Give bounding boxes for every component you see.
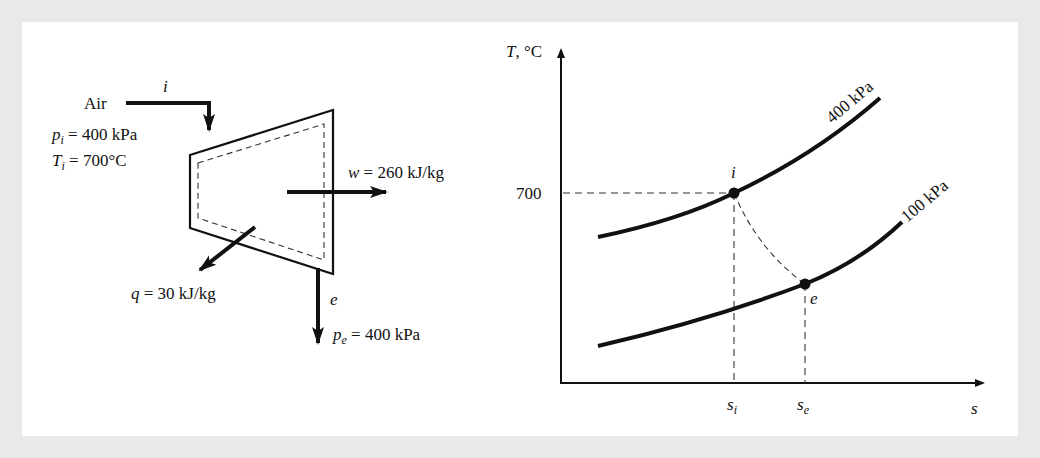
inlet-flow-arrow [126,103,209,130]
point-e-label: e [810,289,818,308]
inlet-pressure-label: pi = 400 kPa [51,125,138,147]
inlet-temperature-label: Ti = 700°C [52,151,127,173]
inlet-state-label: i [163,77,168,96]
isobar-100kpa [598,222,902,346]
y-axis-label: T, °C [506,42,542,61]
expansion-process-curve [734,193,805,284]
air-label: Air [84,94,107,113]
point-i-label: i [731,163,736,182]
work-output-label: w = 260 kJ/kg [348,163,445,182]
ts-diagram: T, °C s 700 400 kPa 100 kPa i e si se [506,42,983,418]
isobar-400kpa-label: 400 kPa [822,77,877,127]
x-tick-se: se [797,395,810,417]
x-tick-si: si [727,395,737,417]
state-point-i [729,188,740,199]
exit-pressure-label: pe = 400 kPa [332,325,421,347]
figure-canvas: i Air pi = 400 kPa Ti = 700°C w = 260 kJ… [0,0,1040,458]
x-axis-label: s [971,399,978,418]
isobar-100kpa-label: 100 kPa [897,176,952,226]
state-point-e [800,279,811,290]
exit-state-label: e [330,290,338,309]
heat-loss-label: q = 30 kJ/kg [131,284,216,303]
turbine-schematic: i Air pi = 400 kPa Ti = 700°C w = 260 kJ… [51,77,445,347]
y-tick-700: 700 [516,184,542,203]
